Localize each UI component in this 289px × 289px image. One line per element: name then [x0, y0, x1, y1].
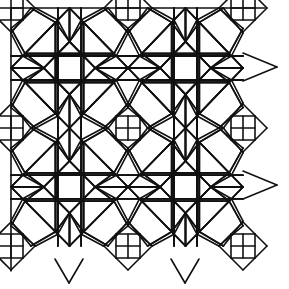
cell-line	[229, 28, 243, 53]
cell-line	[25, 82, 58, 116]
cell-line	[152, 8, 174, 20]
cell-line	[70, 94, 82, 116]
cell-line	[81, 82, 114, 116]
cell-line	[142, 82, 174, 116]
cell-line	[197, 20, 229, 54]
cell-line	[140, 56, 161, 68]
cell-line	[140, 68, 161, 80]
cell-line	[95, 56, 116, 68]
cell-line	[58, 94, 70, 116]
cell-line	[114, 82, 128, 107]
cell-line	[11, 82, 25, 107]
cell-line	[11, 153, 23, 175]
cell-line	[70, 213, 82, 234]
cell-line	[70, 140, 82, 161]
cell-line	[81, 140, 114, 173]
cell-line	[114, 28, 128, 53]
cell-line	[116, 153, 128, 175]
star-tip	[171, 259, 185, 283]
cell-line	[58, 213, 70, 234]
cell-line	[81, 201, 114, 234]
cell-line	[174, 94, 186, 116]
cell-line	[186, 20, 198, 42]
cell-line	[31, 128, 56, 142]
cell-line	[70, 187, 96, 213]
cell-line	[23, 56, 44, 68]
cell-line	[128, 82, 142, 107]
star-tip	[55, 259, 69, 283]
cell-line	[174, 20, 186, 42]
cell-line	[197, 8, 219, 20]
cell-line	[142, 20, 174, 54]
cell-line	[58, 140, 70, 161]
cell-line	[148, 8, 172, 22]
cell-line	[116, 80, 128, 103]
cell-line	[116, 33, 128, 56]
star-tip	[243, 171, 277, 185]
cell-line	[199, 8, 223, 22]
cell-line	[36, 116, 58, 128]
cell-line	[23, 187, 44, 199]
star-tip	[243, 53, 277, 67]
cell-line	[211, 175, 232, 187]
cell-line	[23, 68, 44, 80]
cell-line	[186, 94, 198, 116]
cell-line	[148, 232, 172, 246]
cell-line	[186, 187, 211, 213]
cell-line	[36, 8, 58, 20]
cell-line	[31, 114, 56, 128]
cell-line	[128, 148, 142, 173]
cell-line	[197, 82, 229, 116]
cell-line	[229, 148, 243, 173]
cell-line	[11, 148, 25, 173]
cell-line	[84, 128, 109, 142]
cell-line	[211, 187, 232, 199]
cell-line	[148, 114, 172, 128]
tiling-figure: Geometric star-and-square lattice tiling	[0, 0, 289, 289]
cell-line	[11, 28, 25, 53]
cell-line	[174, 213, 186, 234]
cell-line	[81, 8, 103, 20]
cell-line	[81, 20, 114, 54]
cell-line	[84, 8, 109, 22]
cell-line	[114, 148, 128, 173]
cell-line	[142, 140, 174, 173]
cell-line	[11, 80, 23, 103]
cell-line	[31, 8, 56, 22]
cell-line	[174, 140, 186, 161]
cell-line	[95, 187, 116, 199]
cell-line	[142, 201, 174, 234]
star-tip	[243, 185, 277, 199]
cell-line	[116, 199, 128, 221]
cell-line	[25, 201, 58, 234]
star-tip	[243, 67, 277, 81]
cell-line	[211, 56, 232, 68]
cell-line	[70, 20, 82, 42]
cell-line	[186, 213, 198, 234]
cell-line	[197, 140, 229, 173]
cell-line	[114, 201, 128, 226]
cell-line	[140, 187, 161, 199]
cell-line	[95, 68, 116, 80]
cell-line	[95, 175, 116, 187]
cell-line	[11, 201, 25, 226]
cell-line	[197, 201, 229, 234]
tiling-lines	[0, 0, 289, 289]
cell-line	[186, 68, 211, 94]
cell-line	[199, 114, 223, 128]
cell-line	[140, 175, 161, 187]
cell-line	[199, 232, 223, 246]
star-tip	[69, 259, 83, 283]
cell-line	[152, 116, 174, 128]
cell-line	[11, 199, 23, 221]
cell-line	[11, 33, 23, 56]
cell-line	[197, 116, 219, 128]
cell-line	[84, 232, 109, 246]
cell-line	[23, 175, 44, 187]
cell-line	[148, 128, 172, 142]
cell-line	[25, 20, 58, 54]
star-tip	[185, 259, 199, 283]
cell-line	[31, 232, 56, 246]
cell-line	[229, 201, 243, 226]
cell-line	[186, 140, 198, 161]
